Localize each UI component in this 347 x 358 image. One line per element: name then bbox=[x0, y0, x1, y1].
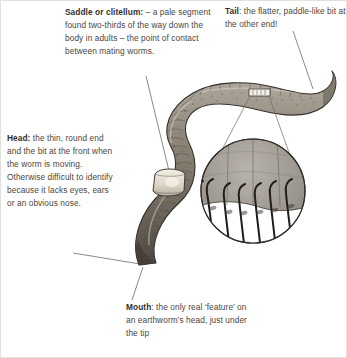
worm-body bbox=[136, 71, 336, 265]
callout-mouth: Mouth: the only real ‘feature’ on an ear… bbox=[126, 301, 251, 340]
magnified-bristles-inset bbox=[197, 139, 311, 247]
callout-saddle: Saddle or clitellum: – a pale segment fo… bbox=[65, 6, 215, 58]
leader-line-saddle bbox=[146, 76, 169, 171]
magnification-projection-lines bbox=[214, 96, 293, 165]
callout-tail-term: Tail bbox=[225, 6, 239, 16]
clitellum-saddle bbox=[153, 169, 185, 196]
leader-line-head bbox=[73, 253, 140, 264]
earthworm-diagram: Saddle or clitellum: – a pale segment fo… bbox=[0, 0, 347, 358]
leader-line-mouth bbox=[132, 267, 143, 300]
callout-mouth-term: Mouth bbox=[126, 302, 151, 312]
leader-line-tail bbox=[293, 31, 313, 89]
callout-head-body: the thin, round end and the bit at the f… bbox=[7, 133, 113, 208]
callout-tail-body: : the flatter, paddle-like bit at the ot… bbox=[225, 6, 346, 29]
callout-tail: Tail: the flatter, paddle-like bit at th… bbox=[225, 5, 347, 31]
callout-saddle-term: Saddle or clitellum: bbox=[65, 7, 143, 17]
magnifier-box-on-body bbox=[249, 89, 270, 96]
callout-head-term: Head: bbox=[7, 133, 30, 143]
callout-head: Head: the thin, round end and the bit at… bbox=[7, 132, 117, 211]
